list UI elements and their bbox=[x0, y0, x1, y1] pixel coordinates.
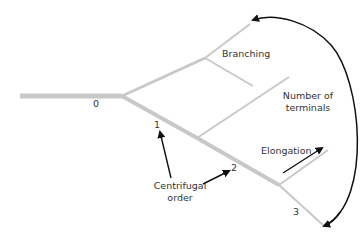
centrifugal-label-line2: order bbox=[148, 192, 212, 204]
order-3-label: 3 bbox=[293, 206, 299, 218]
centrifugal-order-label: Centrifugal order bbox=[148, 180, 212, 204]
order-2-label: 2 bbox=[231, 162, 237, 174]
terminals-label: Number of terminals bbox=[268, 90, 348, 114]
branch-order-3 bbox=[279, 185, 323, 225]
terminals-label-line2: terminals bbox=[268, 102, 348, 114]
terminals-label-line1: Number of bbox=[268, 90, 348, 102]
dendrite-diagram: 0 1 2 3 Branching Number of terminals El… bbox=[0, 0, 362, 236]
centrifugal-label-line1: Centrifugal bbox=[148, 180, 212, 192]
order-1-label: 1 bbox=[154, 119, 160, 131]
branch-order-1 bbox=[122, 96, 197, 138]
elongation-label: Elongation bbox=[261, 145, 312, 157]
branch-upper-low bbox=[205, 58, 253, 86]
order-0-label: 0 bbox=[93, 98, 99, 110]
branch-upper bbox=[122, 58, 205, 96]
branching-label: Branching bbox=[222, 48, 270, 60]
arrow-centrifugal-to-1 bbox=[160, 132, 171, 178]
arrow-terminals-curve-start bbox=[324, 212, 340, 226]
